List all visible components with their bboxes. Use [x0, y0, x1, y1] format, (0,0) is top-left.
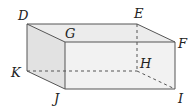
vertex-label-D: D [17, 8, 29, 23]
vertex-label-I: I [177, 91, 184, 106]
vertex-label-J: J [51, 91, 60, 106]
vertex-label-E: E [133, 6, 144, 21]
vertex-label-G: G [65, 26, 75, 41]
vertex-label-K: K [10, 65, 22, 80]
vertex-label-H: H [139, 56, 152, 71]
front-face [65, 42, 175, 89]
vertex-label-F: F [177, 36, 188, 51]
prism-diagram: D E G F K H J I [0, 0, 196, 112]
